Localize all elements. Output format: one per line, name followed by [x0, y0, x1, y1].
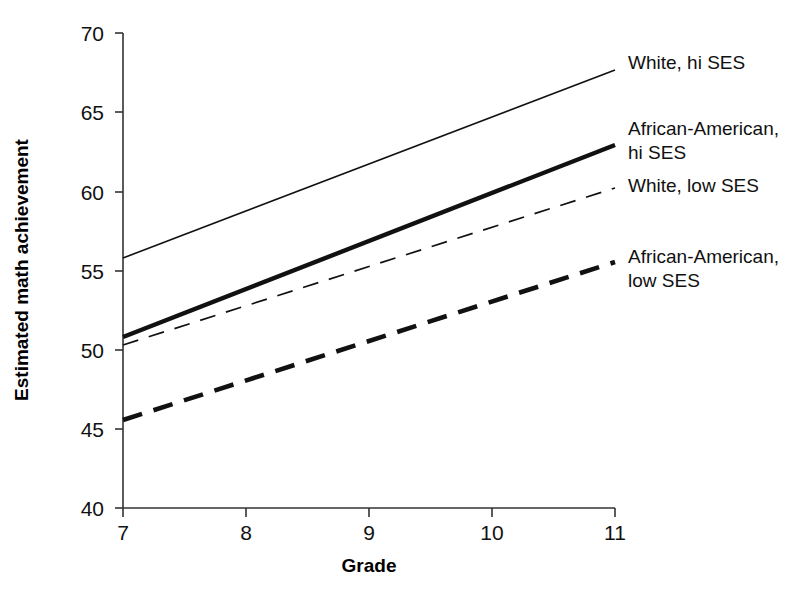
series-line-african-american-low-ses: [123, 262, 615, 420]
y-tick-label-55: 55: [81, 260, 104, 283]
x-axis-title: Grade: [342, 555, 397, 576]
y-tick-label-45: 45: [81, 418, 104, 441]
x-tick-label-11: 11: [604, 521, 626, 544]
series-label-white-low-ses: White, low SES: [628, 175, 759, 196]
y-tick-label-65: 65: [81, 101, 104, 124]
series-label-african-american-hi-ses-line2: hi SES: [628, 142, 686, 163]
series-label-african-american-low-ses-line1: African-American,: [628, 246, 779, 267]
x-tick-label-10: 10: [480, 521, 503, 544]
y-tick-label-60: 60: [81, 181, 104, 204]
x-tick-label-7: 7: [117, 521, 129, 544]
series-label-african-american-hi-ses-line1: African-American,: [628, 118, 779, 139]
series-label-african-american-low-ses-line2: low SES: [628, 270, 700, 291]
y-axis-title: Estimated math achievement: [11, 138, 32, 401]
series-line-white-hi-ses: [123, 70, 615, 258]
chart-figure: 70 65 60 55 50 45 40 7 8 9 10 11 Grade E…: [0, 0, 812, 592]
y-tick-label-40: 40: [81, 497, 104, 520]
series-line-white-low-ses: [123, 188, 615, 345]
line-chart-svg: 70 65 60 55 50 45 40 7 8 9 10 11 Grade E…: [0, 0, 812, 592]
x-tick-label-9: 9: [363, 521, 375, 544]
series-line-african-american-hi-ses: [123, 145, 615, 337]
y-tick-label-70: 70: [81, 22, 104, 45]
x-tick-label-8: 8: [240, 521, 252, 544]
y-tick-label-50: 50: [81, 339, 104, 362]
series-label-white-hi-ses: White, hi SES: [628, 52, 745, 73]
